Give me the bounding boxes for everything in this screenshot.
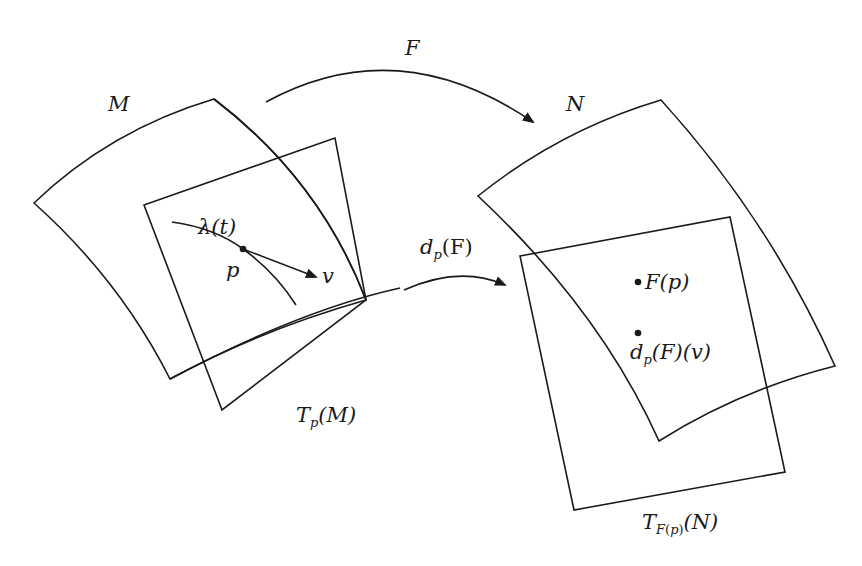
label-tangent-n-sub-f: F bbox=[656, 522, 665, 537]
label-tangent-tfpn: TF(p)(N) bbox=[642, 512, 718, 536]
label-differential-sub: p bbox=[433, 247, 441, 262]
label-vector-v: v bbox=[322, 266, 334, 287]
map-arrow-dpf bbox=[404, 276, 505, 290]
label-differential-arg: (F) bbox=[442, 235, 473, 259]
point-fp-dot bbox=[635, 279, 642, 286]
label-map-f: F bbox=[405, 38, 420, 59]
label-image-point-fp: F(p) bbox=[645, 272, 689, 293]
point-p-dot bbox=[240, 246, 247, 253]
label-point-p: p bbox=[226, 260, 239, 281]
label-image-vector-sub: p bbox=[643, 352, 651, 367]
manifold-m-patch bbox=[34, 99, 366, 379]
label-tangent-n-arg: (N) bbox=[684, 510, 719, 534]
label-tangent-m-t: T bbox=[296, 403, 310, 427]
label-image-vector: dp(F)(v) bbox=[630, 342, 711, 366]
tangent-vector-v-arrow bbox=[243, 249, 316, 277]
diagram-canvas bbox=[0, 0, 862, 566]
label-tangent-n-t: T bbox=[642, 510, 656, 534]
label-manifold-m: M bbox=[108, 94, 130, 115]
label-differential-d: d bbox=[420, 235, 433, 259]
label-image-vector-arg: (F)(v) bbox=[652, 340, 711, 364]
label-curve-lambda: λ(t) bbox=[198, 217, 236, 238]
label-tangent-n-sub: F(p) bbox=[656, 522, 684, 537]
point-dpfv-dot bbox=[635, 330, 642, 337]
label-manifold-n: N bbox=[566, 94, 584, 115]
label-image-vector-d: d bbox=[630, 340, 643, 364]
label-tangent-m-arg: (M) bbox=[318, 403, 356, 427]
map-arrow-f bbox=[266, 70, 533, 122]
label-differential-dpf: dp(F) bbox=[420, 237, 473, 261]
label-tangent-tpm: Tp(M) bbox=[296, 405, 356, 429]
